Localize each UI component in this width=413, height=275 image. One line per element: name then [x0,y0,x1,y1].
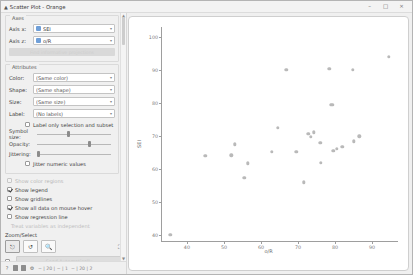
opacity-label: Opacity: [9,141,37,147]
zoom-select-title: Zoom/Select [5,232,126,238]
scatter-point[interactable] [276,126,279,129]
find-informative-projections-button[interactable]: Find informative projections [9,48,115,56]
scatter-point[interactable] [341,145,344,148]
scroll-down-icon[interactable]: ▼ [121,256,126,261]
shape-value: (Same shape) [36,87,110,93]
minimize-icon[interactable]: – [366,4,373,10]
show-legend-checkbox[interactable]: Show legend [7,186,119,193]
symbol-size-row: Symbol size: [9,130,115,138]
scatter-point[interactable] [331,149,334,152]
slider-handle[interactable] [67,131,70,137]
scatter-canvas[interactable]: o/R SEI 405060708090100405060708090 [129,17,408,270]
label-only-selection-text: Label only selection and subset [33,122,113,128]
numeric-variable-icon [36,38,41,43]
show-hover-text: Show all data on mouse hover [15,205,92,211]
scatter-point[interactable] [309,135,312,138]
scatter-point[interactable] [331,103,334,106]
show-color-regions-text: Show color regions [15,178,63,184]
size-combobox[interactable]: (Same size) ▾ [33,97,115,106]
help-icon[interactable]: ? [4,265,10,271]
axis-x-value: SEI [43,26,110,32]
plot-options-group: Show color regions Show legend Show grid… [7,177,119,229]
color-label: Color: [9,75,33,81]
shape-combobox[interactable]: (Same shape) ▾ [33,85,115,94]
scatter-point[interactable] [328,67,331,70]
title-bar: ▲ Scatter Plot - Orange – □ × [1,1,412,13]
scatter-point[interactable] [357,134,360,137]
y-axis-tick [159,235,161,236]
y-axis [161,27,162,242]
scatter-point[interactable] [204,154,207,157]
axis-z-combobox[interactable]: o/R ▾ [33,36,115,45]
send-auto-checkbox[interactable] [5,259,10,261]
scatter-point[interactable] [351,68,354,71]
axis-x-label: Axis x: [9,26,33,32]
x-axis-tick-label: 50 [221,245,227,250]
y-axis-tick [159,103,161,104]
panel-scrollbar[interactable]: ▲ ▼ [120,13,126,261]
scatter-point[interactable] [319,141,322,144]
scatter-point[interactable] [169,233,172,236]
scatter-point[interactable] [352,139,355,142]
x-axis-tick-label: 90 [369,245,375,250]
jittering-slider[interactable] [37,150,115,158]
color-combobox[interactable]: (Same color) ▾ [33,73,115,82]
cursor-select-icon[interactable]: ⎋ [5,240,20,253]
scrollbar-thumb[interactable] [122,17,125,45]
status-bar: ? ⚙ − | 20 | − | 1 − | 20 | 2 [1,261,126,274]
magnifier-zoom-icon[interactable]: 🔍 [41,240,56,253]
jittering-label: Jittering: [9,151,37,157]
label-combobox[interactable]: (No labels) ▾ [33,109,115,118]
jitter-numeric-checkbox[interactable]: Jitter numeric values [25,160,115,167]
show-hover-checkbox[interactable]: Show all data on mouse hover [7,204,119,211]
show-regression-checkbox[interactable]: Show regression line [7,213,119,220]
status-output-text: − | 20 | 2 [71,266,93,271]
x-axis-tick [372,242,373,244]
scatter-point[interactable] [294,150,297,153]
report-icon[interactable] [13,265,18,271]
y-axis-tick [159,136,161,137]
color-value: (Same color) [36,75,110,81]
scatter-point[interactable] [312,130,315,133]
treat-as-independent-label: Treat variables as independent [11,223,119,229]
opacity-slider[interactable] [37,140,115,148]
snapshot-icon[interactable] [21,265,26,271]
x-axis-tick [187,242,188,244]
scatter-point[interactable] [246,162,249,165]
chevron-down-icon: ▾ [110,75,113,80]
maximize-icon[interactable]: □ [382,4,389,10]
close-icon[interactable]: × [398,4,405,10]
label-only-selection-checkbox[interactable]: Label only selection and subset [25,121,115,128]
scatter-point[interactable] [302,181,305,184]
symbol-size-slider[interactable] [37,130,115,138]
checkbox-box [25,161,30,166]
scatter-point[interactable] [243,176,246,179]
send-automatically-button[interactable]: Send Automatically [16,256,122,261]
show-gridlines-checkbox[interactable]: Show gridlines [7,195,119,202]
label-row: Label: (No labels) ▾ [9,109,115,118]
scatter-point[interactable] [284,68,287,71]
settings-icon[interactable]: ⚙ [29,265,35,271]
scatter-point[interactable] [230,154,233,157]
control-panel: Axes Axis x: SEI ▾ Axis z: [1,13,127,274]
scatter-point[interactable] [233,143,236,146]
scatter-point[interactable] [270,150,273,153]
window-title: Scatter Plot - Orange [10,4,66,10]
axis-z-value: o/R [43,38,110,44]
opacity-row: Opacity: [9,140,115,148]
x-axis-tick-label: 60 [258,245,264,250]
scatter-point[interactable] [387,55,390,58]
scatter-point[interactable] [319,161,322,164]
chevron-down-icon: ▾ [110,99,113,104]
scatter-point[interactable] [335,147,338,150]
control-panel-scroll: Axes Axis x: SEI ▾ Axis z: [1,13,126,261]
slider-handle[interactable] [37,151,40,157]
checkbox-box [7,178,12,183]
window-body: Axes Axis x: SEI ▾ Axis z: [1,13,412,274]
checkbox-box [7,196,12,201]
zoom-select-group: Zoom/Select ⎋ ↺ 🔍 ⛶ [1,232,126,253]
plot-area[interactable]: o/R SEI 405060708090100405060708090 [128,16,409,271]
axis-x-combobox[interactable]: SEI ▾ [33,24,115,33]
pan-reset-icon[interactable]: ↺ [23,240,38,253]
y-axis-tick [159,70,161,71]
